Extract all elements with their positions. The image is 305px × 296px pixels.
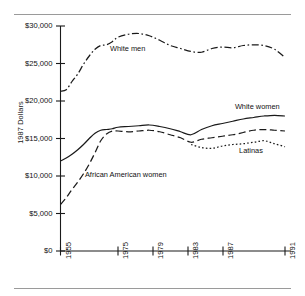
series-line-latinas — [191, 141, 285, 149]
x-tick-label: 1979 — [156, 242, 165, 259]
x-tick-label: 1991 — [288, 242, 297, 259]
y-tick-label: $0 — [0, 246, 53, 255]
series-line-african-american-women — [61, 130, 286, 205]
x-tick-label: 1983 — [191, 242, 200, 259]
chart-figure: 1987 Dollars $30,000$25,000$20,000$15,00… — [0, 0, 305, 296]
x-tick-label: 1975 — [121, 242, 130, 259]
series-label-african-american-women: African American women — [85, 170, 167, 179]
y-tick-label: $10,000 — [0, 171, 53, 180]
axis-lines — [61, 26, 292, 251]
series-label-white-men: White men — [110, 44, 145, 53]
series-line-white-men — [61, 33, 286, 91]
series-label-white-women: White women — [235, 102, 280, 111]
x-tick-label: 1987 — [226, 242, 235, 259]
y-tick-label: $5,000 — [0, 209, 53, 218]
y-tick-label: $20,000 — [0, 96, 53, 105]
x-tick-label: 1955 — [64, 242, 73, 259]
y-tick-label: $30,000 — [0, 21, 53, 30]
y-tick-label: $15,000 — [0, 134, 53, 143]
y-tick-label: $25,000 — [0, 59, 53, 68]
series-label-latinas: Latinas — [239, 146, 263, 155]
data-series — [61, 33, 286, 204]
